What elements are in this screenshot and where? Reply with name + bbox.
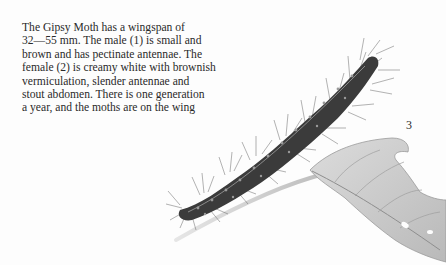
caterpillar-illustration	[0, 0, 446, 265]
book-page: The Gipsy Moth has a wingspan of 32—55 m…	[0, 0, 446, 265]
figure-number: 3	[406, 118, 412, 133]
leaf-icon	[310, 138, 446, 262]
